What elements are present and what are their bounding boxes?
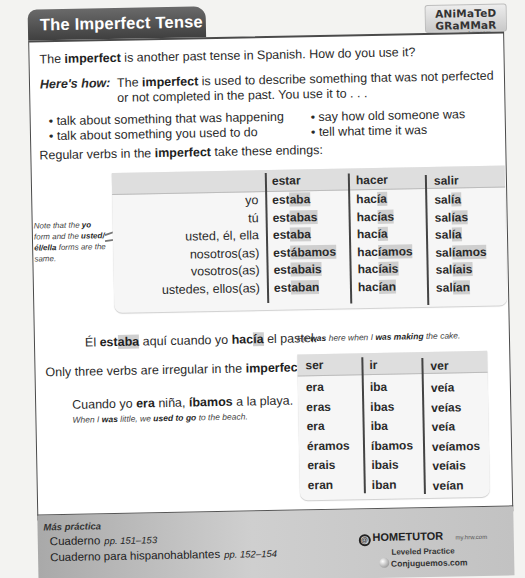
uses-list-right: • say how old someone was • tell what ti… xyxy=(311,107,466,140)
intro-text: The imperfect is another past tense in S… xyxy=(39,45,415,66)
list-item: • tell what time it was xyxy=(311,122,466,140)
grammar-box: The imperfect is another past tense in S… xyxy=(28,31,513,520)
regular-conjugation-table: yo tú usted, él, ella nosotros(as) vosot… xyxy=(112,165,508,313)
animated-grammar-badge[interactable]: ANiMaTeD GRaMMaR my.hrw.com xyxy=(425,3,508,33)
table-cell: veía xyxy=(431,378,479,398)
table-cell: veía xyxy=(431,417,479,437)
table-cell: era xyxy=(306,417,349,437)
pronoun: usted, él, ella xyxy=(133,227,259,247)
list-item: • say how old someone was xyxy=(311,107,466,125)
irregular-verbs-intro: Only three verbs are irregular in the im… xyxy=(45,360,305,379)
table-cell: hacían xyxy=(358,278,414,297)
pronoun: ustedes, ellos(as) xyxy=(134,280,260,300)
heres-how-label: Here's how: xyxy=(40,76,111,91)
table-cell: estabas xyxy=(272,208,335,227)
example-translation-1: He was here when I was making the cake. xyxy=(297,330,461,343)
table-cell: hacíais xyxy=(357,260,413,279)
column-divider xyxy=(348,173,352,303)
globe-icon xyxy=(379,558,389,568)
column-divider xyxy=(361,357,366,493)
example-sentence-2: Cuando yo era niña, íbamos a la playa. xyxy=(72,394,293,412)
table-cell: era xyxy=(306,378,349,398)
practice-footer: Más práctica Cuadernopp. 151–153 Cuadern… xyxy=(37,505,514,578)
table-cell: veían xyxy=(433,475,481,495)
example-sentence-1: Él estaba aquí cuando yo hacía el pastel… xyxy=(85,331,317,349)
table-cell: salíamos xyxy=(435,243,487,261)
verb-column-hacer: hacer hacía hacías hacía hacíamos hacíai… xyxy=(356,168,414,296)
table-cell: salías xyxy=(434,208,486,226)
table-cell: ibais xyxy=(371,455,413,475)
badge-title: ANiMaTeD GRaMMaR xyxy=(426,6,506,32)
example-translation-2: When I was little, we used to go to the … xyxy=(72,411,247,424)
table-cell: hacías xyxy=(356,208,412,227)
verb-column-estar: estar estaba estabas estaba estábamos es… xyxy=(272,169,337,297)
heres-how-text: The imperfect is used to describe someth… xyxy=(117,69,498,106)
table-cell: iba xyxy=(370,377,412,397)
conjuguemos-link[interactable]: Conjuguemos.com xyxy=(338,555,508,569)
verb-column-ser: ser era eras era éramos erais eran xyxy=(305,354,350,496)
table-cell: veíais xyxy=(432,456,480,476)
table-cell: salía xyxy=(434,191,486,209)
table-cell: eran xyxy=(308,475,351,495)
table-cell: ibas xyxy=(370,397,412,417)
column-header: ir xyxy=(369,353,411,378)
table-cell: íbamos xyxy=(371,436,413,456)
column-header: ser xyxy=(305,354,348,379)
table-cell: salía xyxy=(435,226,487,244)
table-cell: estaba xyxy=(273,226,336,245)
list-item: • talk about something you used to do xyxy=(49,125,284,145)
table-cell: salíais xyxy=(435,261,487,279)
table-cell: erais xyxy=(307,455,350,475)
table-cell: hacíamos xyxy=(357,243,413,262)
table-cell: veías xyxy=(431,398,479,418)
table-cell: estaba xyxy=(272,191,335,210)
hometutor-link[interactable]: @HOMETUTOR my.hrw.com xyxy=(338,524,508,546)
verb-column-salir: salir salía salías salía salíamos salíai… xyxy=(434,169,488,297)
table-cell: salían xyxy=(436,278,488,296)
side-note: Note that the yo form and the usted/él/e… xyxy=(34,219,107,264)
textbook-page: The Imperfect Tense ANiMaTeD GRaMMaR my.… xyxy=(0,0,525,578)
table-cell: eras xyxy=(306,397,349,417)
uses-list-left: • talk about something that was happenin… xyxy=(49,110,285,145)
pronoun-column: yo tú usted, él, ella nosotros(as) vosot… xyxy=(132,192,260,299)
table-cell: estabais xyxy=(273,261,336,280)
table-cell: estábamos xyxy=(273,243,336,262)
practice-reference-cuaderno: Cuadernopp. 151–153 xyxy=(50,533,158,547)
column-header: salir xyxy=(434,169,486,192)
practice-reference-hispanohablantes: Cuaderno para hispanohablantespp. 152–15… xyxy=(50,547,277,563)
table-cell: estaban xyxy=(274,278,337,297)
table-cell: hacía xyxy=(356,190,412,209)
column-header: ver xyxy=(430,354,478,379)
page-title: The Imperfect Tense xyxy=(28,6,207,41)
verb-column-ver: ver veía veías veía veíamos veíais veían xyxy=(430,354,481,496)
table-cell: éramos xyxy=(307,436,350,456)
at-sign-icon: @ xyxy=(358,534,370,546)
column-divider xyxy=(421,358,426,494)
column-header: hacer xyxy=(356,168,412,191)
column-divider xyxy=(425,175,429,305)
verb-column-ir: ir iba ibas iba íbamos ibais iban xyxy=(369,353,414,495)
column-divider xyxy=(265,173,269,303)
pronoun: vosotros(as) xyxy=(133,262,259,282)
table-cell: veíamos xyxy=(432,436,480,456)
irregular-conjugation-table: ser era eras era éramos erais eran ir ib… xyxy=(297,351,490,501)
online-resources: @HOMETUTOR my.hrw.com Leveled Practice C… xyxy=(338,524,509,569)
column-header: estar xyxy=(272,169,335,192)
table-cell: hacía xyxy=(357,225,413,244)
table-cell: iba xyxy=(370,416,412,436)
regular-verbs-intro: Regular verbs in the imperfect take thes… xyxy=(39,143,323,162)
table-cell: iban xyxy=(372,475,414,495)
footer-heading: Más práctica xyxy=(43,520,101,532)
